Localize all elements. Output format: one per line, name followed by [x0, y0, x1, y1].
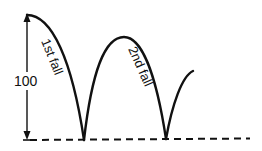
third-bounce-arc	[166, 71, 193, 139]
ground-dashed-line	[30, 139, 250, 141]
arrow-down-icon	[24, 131, 31, 140]
second-fall-label: 2nd fall	[125, 44, 156, 88]
first-fall-label: 1st fall	[38, 37, 66, 78]
height-label: 100	[14, 73, 38, 89]
bouncing-ball-diagram: 100 1st fall 2nd fall	[0, 0, 262, 151]
second-bounce-arc	[84, 37, 166, 140]
